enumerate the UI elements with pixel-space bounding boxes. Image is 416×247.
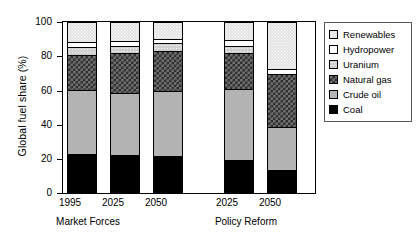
group-label-policy-reform: Policy Reform [176,216,316,227]
segment-crude-oil [111,93,139,155]
x-tick-label-2: 2050 [131,197,181,208]
legend-item-coal[interactable]: Coal [329,102,408,117]
legend: Renewables Hydropower Uranium Natural ga… [324,22,412,122]
uranium-swatch-icon [329,60,338,69]
legend-label-natural-gas: Natural gas [343,75,392,85]
legend-item-renewables[interactable]: Renewables [329,27,408,42]
segment-renewables [111,23,139,41]
segment-crude-oil [225,89,253,160]
segment-coal [154,156,182,192]
legend-label-uranium: Uranium [343,60,379,70]
legend-item-hydropower[interactable]: Hydropower [329,42,408,57]
plot-area [62,22,315,193]
segment-crude-oil [154,91,182,156]
bar-market-forces-2025[interactable] [110,22,140,193]
renewables-swatch-icon [329,30,338,39]
legend-item-natural-gas[interactable]: Natural gas [329,72,408,87]
group-label-market-forces: Market Forces [18,216,158,227]
segment-natural-gas [154,51,182,91]
bar-policy-reform-2025[interactable] [224,22,254,193]
segment-natural-gas [225,53,253,88]
segment-renewables [225,23,253,40]
segment-uranium [154,43,182,51]
y-tick-label-80: 80 [22,51,52,61]
segment-renewables [268,23,296,69]
x-axis-line [62,193,316,194]
segment-coal [225,160,253,192]
segment-uranium [225,46,253,54]
segment-coal [268,170,296,192]
x-tick-label-4: 2050 [245,197,295,208]
bar-market-forces-2050[interactable] [153,22,183,193]
segment-natural-gas [68,55,96,90]
y-tick-label-20: 20 [22,154,52,164]
coal-swatch-icon [329,105,338,114]
segment-uranium [111,46,139,53]
legend-label-crude-oil: Crude oil [343,90,381,100]
hydropower-swatch-icon [329,45,338,54]
segment-coal [111,155,139,192]
y-tick-label-40: 40 [22,120,52,130]
y-tick-label-60: 60 [22,86,52,96]
natural-gas-swatch-icon [329,75,338,84]
segment-coal [68,154,96,192]
segment-renewables [68,23,96,42]
legend-item-uranium[interactable]: Uranium [329,57,408,72]
segment-natural-gas [268,74,296,127]
bar-policy-reform-2050[interactable] [267,22,297,193]
chart-root: Global fuel share (%) 100 80 60 40 20 0 … [0,0,416,247]
plot-right-border [315,21,316,194]
legend-label-hydropower: Hydropower [343,45,394,55]
segment-renewables [154,23,182,39]
legend-label-renewables: Renewables [343,30,395,40]
segment-crude-oil [268,127,296,170]
y-tick-label-100: 100 [22,17,52,27]
legend-item-crude-oil[interactable]: Crude oil [329,87,408,102]
bar-market-forces-1995[interactable] [67,22,97,193]
segment-uranium [68,47,96,55]
y-tick-0 [57,193,62,194]
segment-natural-gas [111,53,139,94]
legend-label-coal: Coal [343,105,363,115]
segment-crude-oil [68,90,96,154]
crude-oil-swatch-icon [329,90,338,99]
